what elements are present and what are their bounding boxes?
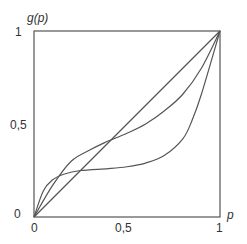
series-diagonal	[34, 31, 220, 217]
y-tick-0: 0	[14, 208, 21, 220]
chart-plot	[0, 0, 247, 244]
x-tick-0-5: 0,5	[115, 222, 132, 234]
y-tick-1: 1	[15, 26, 22, 38]
x-tick-1: 1	[216, 222, 223, 234]
x-tick-0: 0	[31, 222, 38, 234]
x-axis-label: p	[227, 209, 234, 221]
y-axis-label: g(p)	[27, 12, 48, 24]
y-tick-0-5: 0,5	[10, 119, 27, 131]
